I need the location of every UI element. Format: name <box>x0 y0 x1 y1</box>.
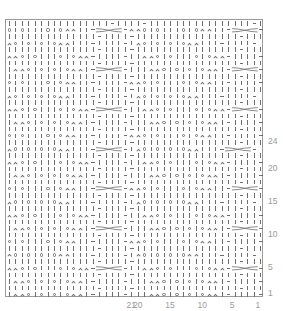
knit-icon <box>258 179 264 186</box>
cable-cross-icon <box>225 146 251 153</box>
chart-row <box>6 113 262 120</box>
cable-cross-icon <box>96 265 122 272</box>
cable-cross-icon <box>232 265 258 272</box>
purl-icon <box>258 212 264 219</box>
cable-cross-icon <box>96 185 122 192</box>
chart-row <box>6 252 262 259</box>
purl-icon <box>251 146 257 153</box>
cable-cross-icon <box>232 106 258 113</box>
chart-row <box>6 285 262 292</box>
chart-row <box>6 46 262 53</box>
chart-row <box>6 93 262 100</box>
cable-cross-icon <box>232 66 258 73</box>
chart-row <box>6 33 262 40</box>
cable-cross-icon <box>96 106 122 113</box>
knitting-chart-grid <box>5 19 263 297</box>
knit-icon <box>258 113 264 120</box>
cable-cross-icon <box>96 146 122 153</box>
chart-row <box>6 172 262 179</box>
cable-cross-icon <box>96 27 122 34</box>
purl-icon <box>251 252 257 259</box>
chart-row <box>6 192 262 199</box>
chart-row <box>6 53 262 60</box>
knit-icon <box>258 219 264 226</box>
knit-icon <box>258 86 264 93</box>
purl-icon <box>258 278 264 285</box>
knit-icon <box>258 33 264 40</box>
knit-icon <box>258 272 264 279</box>
chart-row <box>6 40 262 47</box>
purl-icon <box>258 172 264 179</box>
chart-row <box>6 245 262 252</box>
row-number-label: 15 <box>268 196 277 206</box>
purl-icon <box>258 53 264 60</box>
chart-row <box>6 258 262 265</box>
chart-row <box>6 20 262 27</box>
purl-icon <box>258 133 264 140</box>
purl-icon <box>258 80 264 87</box>
knit-icon <box>258 152 264 159</box>
knit-icon <box>258 258 264 265</box>
purl-icon <box>251 93 257 100</box>
knit-icon <box>258 245 264 252</box>
chart-row <box>6 199 262 206</box>
chart-row <box>6 219 262 226</box>
chart-row <box>6 166 262 173</box>
chart-row <box>6 86 262 93</box>
chart-row <box>6 99 262 106</box>
chart-row <box>6 73 262 80</box>
column-number-label: 5 <box>230 300 235 310</box>
purl-icon <box>251 199 257 206</box>
cable-cross-icon <box>232 225 258 232</box>
purl-icon <box>258 106 264 113</box>
chart-row <box>6 60 262 67</box>
column-number-label: 10 <box>198 300 207 310</box>
row-number-label: 1 <box>268 288 273 298</box>
chart-row <box>6 80 262 87</box>
cable-cross-icon <box>96 66 122 73</box>
chart-row <box>6 152 262 159</box>
purl-icon <box>258 159 264 166</box>
knit-icon <box>258 166 264 173</box>
purl-icon <box>258 291 264 298</box>
chart-row <box>6 232 262 239</box>
purl-icon <box>258 66 264 73</box>
knit-icon <box>258 73 264 80</box>
chart-row <box>6 225 262 232</box>
knit-icon <box>258 20 264 27</box>
chart-row <box>6 27 262 34</box>
knit-icon <box>258 46 264 53</box>
knit-icon <box>258 232 264 239</box>
cable-cross-icon <box>96 225 122 232</box>
purl-icon <box>258 185 264 192</box>
purl-icon <box>258 265 264 272</box>
chart-row <box>6 106 262 113</box>
chart-row <box>6 139 262 146</box>
chart-row <box>6 272 262 279</box>
row-number-label: 5 <box>268 262 273 272</box>
knit-icon <box>258 192 264 199</box>
knit-icon <box>258 139 264 146</box>
chart-row <box>6 133 262 140</box>
purl-icon <box>258 27 264 34</box>
knit-icon <box>258 60 264 67</box>
chart-row <box>6 146 262 153</box>
column-number-label: 1 <box>256 300 261 310</box>
cable-cross-icon <box>232 27 258 34</box>
purl-icon <box>251 40 257 47</box>
chart-row <box>6 119 262 126</box>
chart-row <box>6 238 262 245</box>
knit-icon <box>258 126 264 133</box>
chart-row <box>6 205 262 212</box>
row-number-label: 20 <box>268 163 277 173</box>
chart-row <box>6 126 262 133</box>
chart-row <box>6 212 262 219</box>
chart-row <box>6 265 262 272</box>
chart-row <box>6 278 262 285</box>
knit-icon <box>258 285 264 292</box>
row-number-label: 10 <box>268 229 277 239</box>
purl-icon <box>258 238 264 245</box>
row-number-label: 24 <box>268 136 277 146</box>
knit-icon <box>258 99 264 106</box>
cable-cross-icon <box>232 185 258 192</box>
